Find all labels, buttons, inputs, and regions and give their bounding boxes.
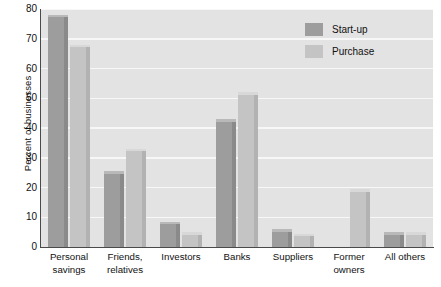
chart-legend: Start-upPurchase xyxy=(305,23,425,67)
bar-top-highlight xyxy=(272,229,292,232)
bar xyxy=(48,15,68,247)
legend-label: Purchase xyxy=(332,46,374,57)
bar xyxy=(182,232,202,247)
bar-side-shade xyxy=(120,171,124,247)
legend-swatch xyxy=(305,23,323,36)
y-axis-tick-label: 60 xyxy=(3,64,37,74)
legend-item: Start-up xyxy=(305,23,425,36)
bar xyxy=(216,119,236,247)
y-axis-tick-label: 30 xyxy=(3,153,37,163)
legend-label: Start-up xyxy=(332,24,368,35)
plot-area: Start-upPurchase xyxy=(41,9,433,247)
bar-top-highlight xyxy=(126,149,146,152)
bar-top-highlight xyxy=(406,232,426,235)
bar xyxy=(350,189,370,247)
bar-group xyxy=(153,9,209,247)
x-axis-tick-label-line: All others xyxy=(377,251,433,264)
bar-group xyxy=(41,9,97,247)
x-axis-tick-label: Friends,relatives xyxy=(97,251,153,276)
y-axis-tick-label: 10 xyxy=(3,212,37,222)
bar-top-highlight xyxy=(294,234,314,237)
x-axis-tick-label: Personalsavings xyxy=(41,251,97,276)
bar-side-shade xyxy=(366,189,370,247)
legend-swatch xyxy=(305,45,323,58)
bar xyxy=(294,234,314,247)
legend-item: Purchase xyxy=(305,45,425,58)
bar-top-highlight xyxy=(182,232,202,235)
x-axis-line xyxy=(40,247,434,248)
bar xyxy=(406,232,426,247)
bar-top-highlight xyxy=(160,222,180,225)
x-axis-tick-label: All others xyxy=(377,251,433,264)
x-axis-tick-label: Banks xyxy=(209,251,265,264)
bar-chart: Percent of businesses 01020304050607080 … xyxy=(0,0,441,287)
bar-top-highlight xyxy=(104,171,124,174)
bar-side-shade xyxy=(142,149,146,247)
bar-side-shade xyxy=(176,222,180,247)
bar xyxy=(104,171,124,247)
bar-group xyxy=(209,9,265,247)
x-axis-tick-label-line: Friends, xyxy=(97,251,153,264)
x-axis-tick-label-line: relatives xyxy=(97,264,153,277)
x-axis-tick-label-line: Suppliers xyxy=(265,251,321,264)
bar xyxy=(238,92,258,247)
x-axis-tick-label-line: Investors xyxy=(153,251,209,264)
x-axis-tick-label: Investors xyxy=(153,251,209,264)
y-axis-tick-labels: 01020304050607080 xyxy=(0,0,37,287)
y-axis-tick-label: 70 xyxy=(3,34,37,44)
bar xyxy=(384,232,404,247)
bar xyxy=(160,222,180,247)
bar-top-highlight xyxy=(48,15,68,18)
x-axis-tick-label-line: owners xyxy=(321,264,377,277)
bar-side-shade xyxy=(288,229,292,247)
bar-side-shade xyxy=(254,92,258,247)
x-axis-tick-label-line: savings xyxy=(41,264,97,277)
bar-top-highlight xyxy=(238,92,258,95)
y-axis-line xyxy=(40,9,41,248)
bar-top-highlight xyxy=(216,119,236,122)
bar-side-shade xyxy=(64,15,68,247)
bar-top-highlight xyxy=(70,45,90,48)
bar-top-highlight xyxy=(350,189,370,192)
x-axis-tick-label-line: Personal xyxy=(41,251,97,264)
y-axis-tick-label: 0 xyxy=(3,242,37,252)
bar xyxy=(126,149,146,247)
bar-side-shade xyxy=(86,45,90,247)
bar xyxy=(70,45,90,247)
bar-top-highlight xyxy=(384,232,404,235)
bar xyxy=(272,229,292,247)
bar-group xyxy=(97,9,153,247)
x-axis-tick-label: Formerowners xyxy=(321,251,377,276)
x-axis-tick-label-line: Banks xyxy=(209,251,265,264)
y-axis-tick-label: 20 xyxy=(3,183,37,193)
bar-side-shade xyxy=(232,119,236,247)
x-axis-tick-labels: PersonalsavingsFriends,relativesInvestor… xyxy=(41,251,433,287)
y-axis-tick-label: 50 xyxy=(3,93,37,103)
y-axis-tick-label: 80 xyxy=(3,4,37,14)
x-axis-tick-label: Suppliers xyxy=(265,251,321,264)
x-axis-tick-label-line: Former xyxy=(321,251,377,264)
y-axis-tick-label: 40 xyxy=(3,123,37,133)
